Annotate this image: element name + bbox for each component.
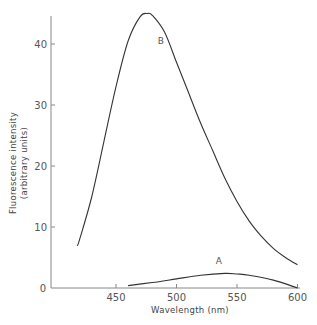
y-axis-label: Fluorescence intensity (arbitrary units) (8, 112, 29, 214)
x-tick-label: 500 (167, 292, 186, 303)
y-tick-label: 10 (34, 222, 47, 233)
y-axis-label-line1: Fluorescence intensity (8, 112, 18, 214)
x-ticks: 450500550600 (106, 284, 307, 303)
y-axis-label-line2: (arbitrary units) (19, 127, 29, 199)
y-tick-label: 20 (34, 161, 47, 172)
curve-label-a: A (216, 256, 223, 266)
fluorescence-chart: 010203040 450500550600 BA Wavelength (nm… (0, 0, 317, 325)
x-tick-label: 550 (227, 292, 246, 303)
y-tick-label: 0 (40, 283, 46, 294)
curve-a (128, 273, 297, 288)
x-tick-label: 450 (106, 292, 125, 303)
y-ticks: 010203040 (34, 39, 55, 294)
x-axis-label: Wavelength (nm) (151, 305, 229, 315)
curve-label-b: B (158, 36, 164, 46)
x-tick-label: 600 (288, 292, 307, 303)
plot-axes (51, 16, 300, 288)
y-tick-label: 30 (34, 100, 47, 111)
curve-b (77, 13, 297, 265)
curves (77, 13, 297, 288)
y-tick-label: 40 (34, 39, 47, 50)
